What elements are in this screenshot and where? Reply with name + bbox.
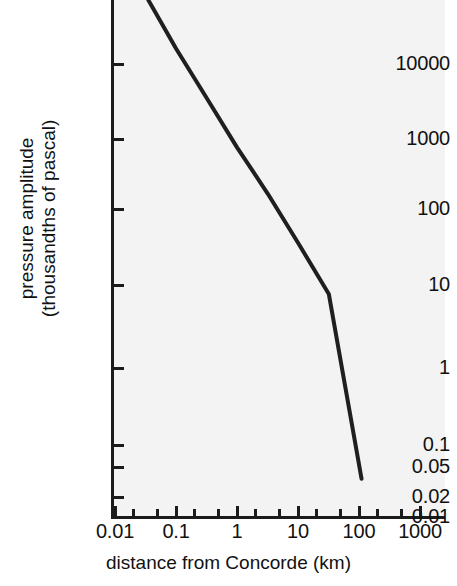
y-tick-1000 (113, 138, 124, 141)
y-tick-label-1: 1 (349, 357, 457, 377)
y-tick-label-0-05: 0.05 (349, 456, 457, 476)
x-tick-label-10: 10 (287, 521, 309, 541)
x-axis-title: distance from Concorde (km) (0, 553, 457, 572)
y-tick-0-05 (113, 466, 124, 469)
x-minor-tick (156, 509, 159, 517)
x-tick-label-100: 100 (343, 521, 376, 541)
y-tick-label-1000: 1000 (349, 128, 457, 148)
y-axis-title-line-2: (thousandths of pascal) (38, 28, 60, 408)
y-tick-10 (113, 284, 124, 287)
x-tick-100 (358, 506, 361, 517)
x-minor-tick (193, 509, 196, 517)
x-tick-10 (297, 506, 300, 517)
y-axis-line (111, 0, 114, 519)
y-axis-title-line-1: pressure amplitude (16, 28, 38, 408)
y-tick-10000 (113, 63, 124, 66)
x-minor-tick (400, 509, 403, 517)
y-tick-label-0-02: 0.02 (349, 486, 457, 506)
x-minor-tick (217, 509, 220, 517)
x-tick-label-1000: 1000 (398, 521, 442, 541)
x-minor-tick (315, 509, 318, 517)
y-tick-1 (113, 367, 124, 370)
data-series-line-0 (148, 0, 361, 479)
x-tick-1000 (419, 506, 422, 517)
x-minor-tick (278, 509, 281, 517)
y-axis-title: pressure amplitude (thousandths of pasca… (16, 28, 61, 408)
x-minor-tick (254, 509, 257, 517)
y-tick-label-0-1: 0.1 (349, 434, 457, 454)
x-tick-1 (236, 506, 239, 517)
x-tick-0-1 (175, 506, 178, 517)
x-tick-label-1: 1 (232, 521, 243, 541)
chart-figure: 1000010001001010.10.050.020.01 0.010.111… (0, 0, 457, 586)
y-tick-label-10000: 10000 (349, 53, 457, 73)
y-tick-0-02 (113, 496, 124, 499)
x-tick-0-01 (114, 506, 117, 517)
x-minor-tick (376, 509, 379, 517)
x-minor-tick (339, 509, 342, 517)
y-tick-label-100: 100 (349, 198, 457, 218)
y-tick-0-1 (113, 444, 124, 447)
y-tick-label-10: 10 (349, 274, 457, 294)
x-minor-tick (132, 509, 135, 517)
x-tick-label-0-01: 0.01 (96, 521, 134, 541)
x-tick-label-0-1: 0.1 (162, 521, 189, 541)
y-tick-100 (113, 208, 124, 211)
